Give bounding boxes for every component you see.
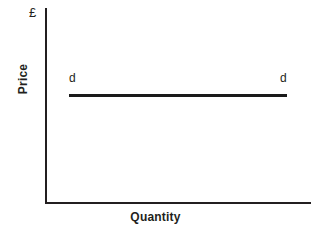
currency-symbol: £ — [29, 6, 36, 20]
y-axis-line — [45, 8, 47, 204]
x-axis-line — [45, 202, 311, 204]
demand-curve-label-left: d — [69, 72, 76, 85]
demand-curve-label-right: d — [280, 72, 287, 85]
demand-curve-line — [69, 94, 287, 97]
x-axis-title: Quantity — [0, 210, 311, 224]
y-axis-title: Price — [16, 56, 30, 102]
demand-curve-figure: £ Price Quantity d d — [0, 0, 311, 228]
